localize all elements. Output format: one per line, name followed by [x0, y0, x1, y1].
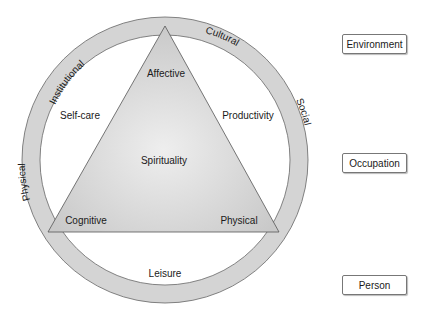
person-affective: Affective — [147, 68, 185, 79]
person-spirituality: Spirituality — [141, 155, 187, 166]
occupation-leisure: Leisure — [149, 268, 182, 279]
occupation-productivity: Productivity — [222, 110, 274, 121]
person-cognitive: Cognitive — [65, 215, 107, 226]
occupation-self-care: Self-care — [60, 110, 100, 121]
legend-person: Person — [342, 275, 407, 295]
legend-environment: Environment — [342, 34, 407, 54]
legend-occupation: Occupation — [342, 153, 407, 173]
person-physical: Physical — [220, 215, 257, 226]
